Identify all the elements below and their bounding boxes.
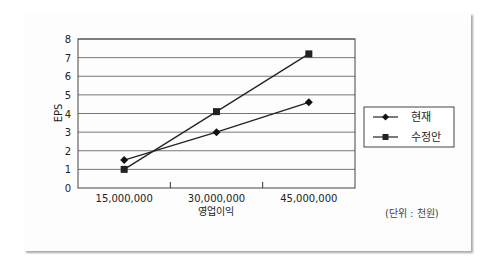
y-tick-label: 8: [65, 34, 71, 45]
y-tick-label: 3: [65, 127, 71, 138]
x-tick-label: 15,000,000: [96, 193, 153, 204]
square-marker-icon: [305, 50, 312, 57]
legend-label-current: 현재: [411, 111, 431, 124]
diamond-marker-icon: [305, 98, 313, 106]
x-tick-label: 30,000,000: [188, 193, 245, 204]
diamond-marker-icon: [213, 128, 221, 136]
legend-label-proposal: 수정안: [411, 131, 441, 144]
square-marker-icon: [213, 108, 220, 115]
y-tick-label: 6: [65, 71, 71, 82]
y-tick-label: 4: [65, 109, 71, 120]
x-axis-ticks: 15,000,00030,000,00045,000,000: [96, 182, 338, 204]
x-tick-label: 45,000,000: [280, 193, 337, 204]
y-axis-title: EPS: [53, 104, 64, 123]
square-marker-icon: [383, 134, 389, 140]
square-marker-icon: [121, 166, 128, 173]
gridlines: [78, 39, 355, 169]
data-series: [120, 50, 313, 172]
legend: 현재 수정안: [364, 107, 454, 147]
x-axis-title: 영업이익: [198, 205, 234, 217]
y-tick-label: 5: [65, 90, 71, 101]
y-tick-label: 2: [65, 146, 71, 157]
eps-line-chart: 012345678 15,000,00030,000,00045,000,000…: [0, 0, 497, 267]
y-axis-ticks: 012345678: [65, 34, 71, 194]
y-tick-label: 0: [65, 183, 71, 194]
diamond-marker-icon: [120, 156, 128, 164]
unit-annotation: (단위 : 천원): [385, 207, 439, 219]
y-tick-label: 7: [65, 53, 71, 64]
y-tick-label: 1: [65, 164, 71, 175]
